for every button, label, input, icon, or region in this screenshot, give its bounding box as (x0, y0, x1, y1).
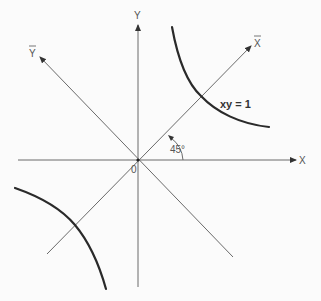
origin-point (136, 158, 139, 161)
y-axis-label: Y (134, 10, 141, 21)
svg-text:X: X (254, 38, 261, 49)
x-bar-label: X (254, 36, 261, 49)
x-bar-axis (47, 46, 251, 254)
angle-label: 45° (170, 144, 185, 155)
x-axis-label: X (299, 155, 306, 166)
origin-label: 0 (131, 164, 137, 175)
hyperbola-diagram: X Y X Y 0 45° xy = 1 (0, 0, 321, 301)
y-bar-axis (40, 57, 233, 257)
hyperbola-branch-lower (15, 188, 106, 289)
curve-equation-label: xy = 1 (220, 98, 251, 110)
svg-text:Y: Y (29, 48, 36, 59)
y-bar-label: Y (29, 46, 36, 59)
